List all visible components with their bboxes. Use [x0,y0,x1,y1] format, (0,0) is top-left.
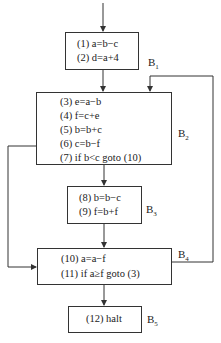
statement: (8) b=b−c [79,192,121,204]
statement: (7) if b<c goto (10) [60,152,141,164]
edge-b2-b4 [8,146,36,267]
statement: (1) a=b−c [77,38,118,50]
statement: (10) a=a−f [61,253,106,265]
statement: (11) if a≥f goto (3) [61,268,140,280]
block-label-b3: B3 [146,203,157,218]
block-label-b5: B5 [147,313,158,328]
statement: (5) b=b+c [60,124,102,136]
block-label-b2: B2 [178,127,189,142]
statement: (4) f=c+e [60,110,100,122]
statement: (9) f=b+f [79,206,118,218]
statement: (3) e=a−b [60,96,101,108]
block-label-b1: B1 [148,56,159,71]
statement: (2) d=a+4 [77,52,119,64]
block-label-b4: B4 [178,248,189,263]
statement: (12) halt [86,313,122,325]
statement: (6) c=b−f [60,138,100,150]
